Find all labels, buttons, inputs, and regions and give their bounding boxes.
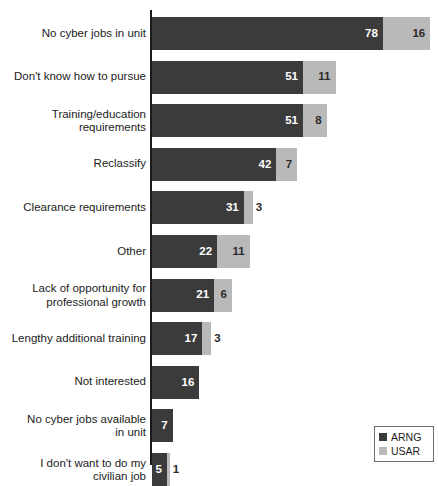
bar-row: Don't know how to pursue5111	[0, 61, 438, 94]
bar-value-label: 42	[259, 159, 277, 171]
bar-value-label: 11	[232, 246, 249, 258]
bar-segment-arng: 5	[152, 453, 167, 486]
category-label: Clearance requirements	[2, 201, 146, 215]
category-label: Training/education requirements	[2, 107, 146, 134]
bar-segment-usar: 7	[276, 148, 297, 181]
bar-row: I don't want to do my civilian job51	[0, 453, 438, 486]
bar-segment-usar: 3	[202, 322, 211, 355]
legend-label-usar: USAR	[391, 446, 420, 457]
bar-segment-arng: 21	[152, 279, 214, 312]
bar-segment-usar: 1	[167, 453, 170, 486]
stacked-bar: 518	[152, 104, 327, 137]
stacked-bar: 2211	[152, 235, 250, 268]
bar-value-label: 31	[226, 202, 244, 214]
bar-value-label: 1	[170, 464, 179, 476]
bar-value-label: 16	[412, 28, 430, 40]
bar-value-label: 11	[318, 71, 335, 83]
bar-value-label: 7	[286, 159, 297, 171]
bar-segment-arng: 7	[152, 409, 173, 442]
chart-legend: ARNG USAR	[374, 426, 434, 462]
bar-segment-usar: 11	[217, 235, 250, 268]
bar-segment-arng: 78	[152, 17, 383, 50]
bar-row: No cyber jobs available in unit7	[0, 409, 438, 442]
legend-swatch-arng-icon	[379, 433, 387, 441]
bar-segment-arng: 31	[152, 191, 244, 224]
bar-value-label: 17	[185, 333, 203, 345]
bar-segment-arng: 17	[152, 322, 202, 355]
bar-segment-usar: 3	[244, 191, 253, 224]
stacked-bar: 16	[152, 366, 199, 399]
bar-value-label: 3	[211, 333, 220, 345]
legend-swatch-usar-icon	[379, 447, 387, 455]
stacked-bar: 173	[152, 322, 211, 355]
bar-value-label: 3	[253, 202, 262, 214]
bar-value-label: 21	[196, 289, 214, 301]
bar-value-label: 51	[285, 115, 303, 127]
category-label: No cyber jobs in unit	[2, 27, 146, 41]
stacked-bar: 427	[152, 148, 297, 181]
bar-segment-usar: 16	[383, 17, 430, 50]
category-label: I don't want to do my civilian job	[2, 456, 146, 483]
bar-value-label: 7	[161, 420, 172, 432]
legend-item-arng: ARNG	[379, 430, 429, 444]
bar-row: Training/education requirements518	[0, 104, 438, 137]
bar-value-label: 6	[221, 289, 232, 301]
category-label: Lengthy additional training	[2, 332, 146, 346]
category-label: Lack of opportunity for professional gro…	[2, 282, 146, 309]
bar-segment-arng: 42	[152, 148, 276, 181]
bar-value-label: 16	[182, 377, 200, 389]
bar-segment-usar: 6	[214, 279, 232, 312]
bar-segment-arng: 16	[152, 366, 199, 399]
bar-row: Reclassify427	[0, 148, 438, 181]
stacked-bar: 5111	[152, 61, 336, 94]
bar-row: Lengthy additional training173	[0, 322, 438, 355]
legend-item-usar: USAR	[379, 444, 429, 458]
category-label: Reclassify	[2, 158, 146, 172]
bar-row: Other2211	[0, 235, 438, 268]
category-label: No cyber jobs available in unit	[2, 412, 146, 439]
legend-label-arng: ARNG	[391, 432, 421, 443]
category-label: Don't know how to pursue	[2, 70, 146, 84]
bar-segment-arng: 22	[152, 235, 217, 268]
stacked-bar: 216	[152, 279, 232, 312]
category-label: Other	[2, 245, 146, 259]
stacked-bar: 7	[152, 409, 173, 442]
bar-value-label: 22	[199, 246, 217, 258]
bar-row: Not interested16	[0, 366, 438, 399]
bar-value-label: 78	[365, 28, 383, 40]
bar-value-label: 8	[315, 115, 326, 127]
bar-segment-usar: 11	[303, 61, 336, 94]
bar-row: No cyber jobs in unit7816	[0, 17, 438, 50]
bar-value-label: 51	[285, 71, 303, 83]
stacked-bar: 51	[152, 453, 170, 486]
bar-segment-usar: 8	[303, 104, 327, 137]
bar-row: Clearance requirements313	[0, 191, 438, 224]
stacked-bar: 7816	[152, 17, 430, 50]
bar-value-label: 5	[155, 464, 166, 476]
bar-segment-arng: 51	[152, 104, 303, 137]
category-label: Not interested	[2, 376, 146, 390]
stacked-bar: 313	[152, 191, 253, 224]
bar-segment-arng: 51	[152, 61, 303, 94]
bar-row: Lack of opportunity for professional gro…	[0, 279, 438, 312]
